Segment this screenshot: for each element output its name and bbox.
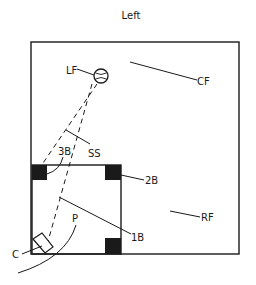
diagram-title: Left [122,10,141,21]
rf-pointer-line [170,211,200,217]
cf-pointer-line [130,62,197,80]
lf-label: LF [66,65,78,76]
first-base-label: 1B [131,232,144,243]
second-base-label: 2B [145,175,158,186]
first-base [105,238,121,254]
first-base-pointer-line [59,197,131,234]
lf-pointer-line [77,69,94,75]
pitcher-label: P [72,213,78,224]
cf-label: CF [197,76,210,87]
catcher-label: C [12,249,19,260]
ss-pointer-line [66,130,90,144]
second-base-pointer-line [121,175,144,180]
third-base-label: 3B [58,146,71,157]
third-base [32,165,47,180]
baseball-field-diagram: Left LF CF SS 3B 2B [0,0,256,285]
baseball-icon [94,69,108,83]
ss-label: SS [88,148,101,159]
second-base [105,165,121,180]
rf-label: RF [201,212,214,223]
